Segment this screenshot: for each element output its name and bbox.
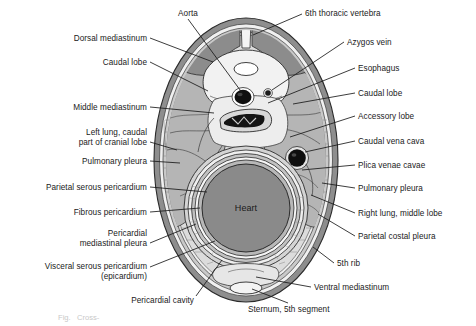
heart-label: Heart <box>216 204 276 214</box>
label-aorta: Aorta <box>158 9 218 19</box>
azygos-vessel <box>264 89 273 98</box>
aorta-vessel <box>232 88 254 107</box>
label-parietal-costal-pleura: Parietal costal pleura <box>358 232 474 242</box>
label-pulmonary-pleura-right: Pulmonary pleura <box>358 184 472 194</box>
label-6th-thoracic-vertebra: 6th thoracic vertebra <box>305 9 465 19</box>
leader-5th-rib <box>313 247 334 263</box>
label-caudal-vena-cava: Caudal vena cava <box>358 137 472 147</box>
label-pericardial-mediastinal-pleura: Pericardial mediastinal pleura <box>6 229 147 248</box>
spinal-canal <box>234 63 258 76</box>
label-caudal-lobe-left: Caudal lobe <box>14 58 147 68</box>
label-esophagus: Esophagus <box>358 64 472 74</box>
label-fibrous-pericardium: Fibrous pericardium <box>6 208 147 218</box>
label-accessory-lobe: Accessory lobe <box>358 112 472 122</box>
label-caudal-lobe-right: Caudal lobe <box>358 89 472 99</box>
label-left-lung-caudal-cranial: Left lung, caudal part of cranial lobe <box>4 128 147 147</box>
anatomy-diagram-page: Heart Dorsal mediastinumCaudal lobeMiddl… <box>0 0 476 326</box>
label-azygos-vein: Azygos vein <box>347 38 472 48</box>
label-right-lung-middle-lobe: Right lung, middle lobe <box>358 209 476 219</box>
label-pulmonary-pleura-left: Pulmonary pleura <box>4 157 147 167</box>
label-middle-mediastinum: Middle mediastinum <box>4 103 147 113</box>
label-visceral-serous-pericardium: Visceral serous pericardium (epicardium) <box>2 262 147 281</box>
sternum <box>230 282 262 294</box>
label-parietal-serous-pericardium: Parietal serous pericardium <box>2 183 147 193</box>
label-sternum-5th-segment: Sternum, 5th segment <box>248 305 380 315</box>
label-plica-venae-cavae: Plica venae cavae <box>358 161 472 171</box>
label-ventral-mediastinum: Ventral mediastinum <box>314 283 444 293</box>
label-pericardial-cavity: Pericardial cavity <box>104 296 194 306</box>
label-5th-rib: 5th rib <box>337 259 407 269</box>
label-dorsal-mediastinum: Dorsal mediastinum <box>14 34 147 44</box>
figure-caption-remnant: Fig. Cross- <box>58 313 99 322</box>
